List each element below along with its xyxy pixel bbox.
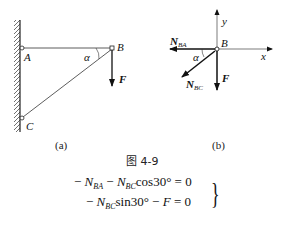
label-f: F [118, 73, 127, 85]
label-f-b: F [221, 72, 230, 84]
angle-arc [96, 48, 99, 59]
label-alpha: α [84, 51, 90, 63]
label-alpha-b: α [193, 51, 199, 63]
equation-2: − NBCsin30° − F = 0 [86, 194, 191, 211]
label-y: y [221, 15, 227, 27]
eq1-minus2: − [103, 174, 117, 189]
label-n-bc: NBC [185, 78, 203, 92]
figure-number: 图 4-9 [126, 155, 158, 168]
label-b: B [117, 41, 124, 53]
eq2-sub-bc: BC [105, 202, 115, 211]
joint-b [110, 46, 114, 50]
eq1-sub-ba: BA [93, 182, 103, 191]
eq2-f: F [163, 194, 171, 209]
eq2-n: N [97, 194, 106, 209]
eq1-minus: − [74, 174, 85, 189]
caption-b: (b) [212, 139, 225, 152]
eq1-n2: N [117, 174, 126, 189]
label-b2: B [221, 37, 228, 49]
eq1-rest: cos30° = 0 [136, 174, 192, 189]
label-x: x [260, 50, 266, 62]
angle-arc-b [202, 49, 204, 57]
label-a: A [23, 51, 31, 63]
point-b [215, 47, 219, 51]
wall-hatch [14, 20, 20, 132]
eq1-sub-bc: BC [126, 182, 136, 191]
figure-b: y x B α NBA NBC F (b) [169, 10, 272, 152]
hinge-c [20, 116, 24, 120]
caption-a: (a) [55, 139, 68, 152]
equation-brace: } [211, 176, 220, 210]
label-n-ba: NBA [169, 35, 187, 49]
eq1-n: N [85, 174, 94, 189]
figure-a: A B C α F (a) [14, 20, 127, 152]
equation-1: − NBA − NBCcos30° = 0 [74, 174, 192, 191]
label-c: C [26, 120, 34, 132]
rod-bc [23, 49, 112, 117]
eq2-rest: = 0 [171, 194, 191, 209]
hinge-a [20, 46, 24, 50]
eq2-mid: sin30° − [116, 194, 163, 209]
eq2-minus: − [86, 194, 97, 209]
